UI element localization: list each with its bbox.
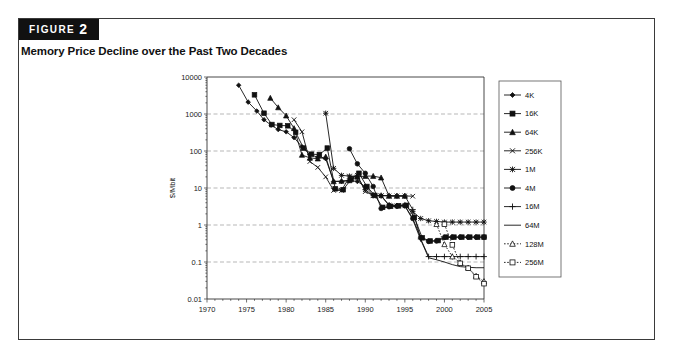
- legend-label: 128M: [525, 240, 544, 249]
- svg-text:1975: 1975: [238, 305, 255, 314]
- data-series-group: [236, 83, 487, 286]
- svg-text:1995: 1995: [397, 305, 414, 314]
- svg-text:1990: 1990: [357, 305, 374, 314]
- y-axis-title: $/Mbit: [168, 177, 177, 198]
- svg-text:100: 100: [189, 147, 202, 156]
- svg-text:1: 1: [198, 221, 202, 230]
- legend-label: 16M: [525, 202, 540, 211]
- svg-text:1000: 1000: [185, 110, 202, 119]
- chart-area: 0.010.1110100100010000 19701975198019851…: [19, 67, 656, 339]
- svg-text:2005: 2005: [476, 305, 493, 314]
- figure-title: Memory Price Decline over the Past Two D…: [21, 45, 287, 57]
- legend-label: 1M: [525, 165, 535, 174]
- svg-text:2000: 2000: [436, 305, 453, 314]
- svg-text:$/Mbit: $/Mbit: [168, 177, 177, 198]
- legend-label: 64K: [525, 128, 538, 137]
- series-64K: [268, 95, 408, 198]
- figure-card: FIGURE2 Memory Price Decline over the Pa…: [18, 18, 655, 340]
- legend-label: 256K: [525, 147, 543, 156]
- svg-text:0.1: 0.1: [192, 258, 202, 267]
- series-256M: [442, 222, 486, 286]
- x-axis-tick-labels: 19701975198019851990199520002005: [199, 305, 493, 314]
- legend-label: 16K: [525, 109, 538, 118]
- figure-badge-number: 2: [79, 21, 87, 37]
- memory-price-chart: 0.010.1110100100010000 19701975198019851…: [19, 67, 656, 339]
- legend-label: 4K: [525, 91, 534, 100]
- legend-label: 64M: [525, 221, 540, 230]
- series-16M: [378, 193, 487, 260]
- svg-text:10: 10: [194, 184, 202, 193]
- series-4K: [236, 83, 407, 208]
- svg-text:1985: 1985: [317, 305, 334, 314]
- figure-badge: FIGURE2: [19, 19, 99, 40]
- svg-text:1970: 1970: [199, 305, 216, 314]
- chart-legend: 4K16K64K256K1M4M16M64M128M256M: [499, 81, 561, 277]
- figure-badge-word: FIGURE: [29, 24, 75, 35]
- svg-text:0.01: 0.01: [187, 295, 202, 304]
- legend-label: 256M: [525, 258, 544, 267]
- svg-text:1980: 1980: [278, 305, 295, 314]
- legend-label: 4M: [525, 184, 535, 193]
- svg-text:10000: 10000: [181, 73, 202, 82]
- y-axis-tick-labels: 0.010.1110100100010000: [181, 73, 202, 304]
